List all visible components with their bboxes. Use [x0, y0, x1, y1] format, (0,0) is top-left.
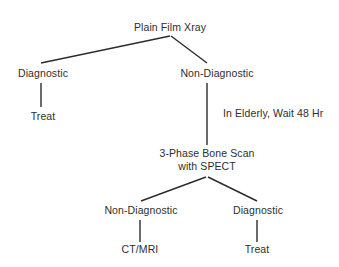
node-plain-film-xray-label: Plain Film Xray — [134, 21, 206, 34]
edge-root-to-xray-nondiagnostic — [171, 36, 207, 63]
node-scan-nondiagnostic-ctmri: CT/MRI — [122, 243, 159, 256]
edge-root-to-xray-diagnostic — [41, 36, 170, 63]
node-scan-diagnostic-treat-label: Treat — [245, 243, 270, 256]
node-scan-diagnostic-treat: Treat — [245, 243, 270, 256]
edge-bone-scan-to-scan-diagnostic — [208, 177, 257, 201]
node-xray-nondiagnostic: Non-Diagnostic — [180, 67, 253, 80]
node-wait-note: In Elderly, Wait 48 Hr — [223, 107, 323, 120]
node-bone-scan-label-line1: 3-Phase Bone Scan — [159, 147, 254, 160]
node-xray-diagnostic-label: Diagnostic — [18, 67, 68, 80]
connector-edges-layer — [0, 0, 339, 267]
node-scan-diagnostic-label: Diagnostic — [233, 204, 283, 217]
node-scan-nondiagnostic-ctmri-label: CT/MRI — [122, 243, 159, 256]
node-xray-diagnostic: Diagnostic — [18, 67, 68, 80]
node-wait-note-label: In Elderly, Wait 48 Hr — [223, 107, 323, 120]
node-scan-nondiagnostic-label: Non-Diagnostic — [104, 204, 177, 217]
node-plain-film-xray: Plain Film Xray — [134, 21, 206, 34]
edge-bone-scan-to-scan-nondiagnostic — [141, 177, 206, 201]
node-xray-diagnostic-treat-label: Treat — [31, 110, 56, 123]
node-xray-nondiagnostic-label: Non-Diagnostic — [180, 67, 253, 80]
node-xray-diagnostic-treat: Treat — [31, 110, 56, 123]
decision-tree-diagram: Plain Film Xray Diagnostic Treat Non-Dia… — [0, 0, 339, 267]
node-scan-nondiagnostic: Non-Diagnostic — [104, 204, 177, 217]
node-bone-scan: 3-Phase Bone Scan with SPECT — [159, 147, 254, 172]
node-scan-diagnostic: Diagnostic — [233, 204, 283, 217]
node-bone-scan-label-line2: with SPECT — [159, 160, 254, 173]
